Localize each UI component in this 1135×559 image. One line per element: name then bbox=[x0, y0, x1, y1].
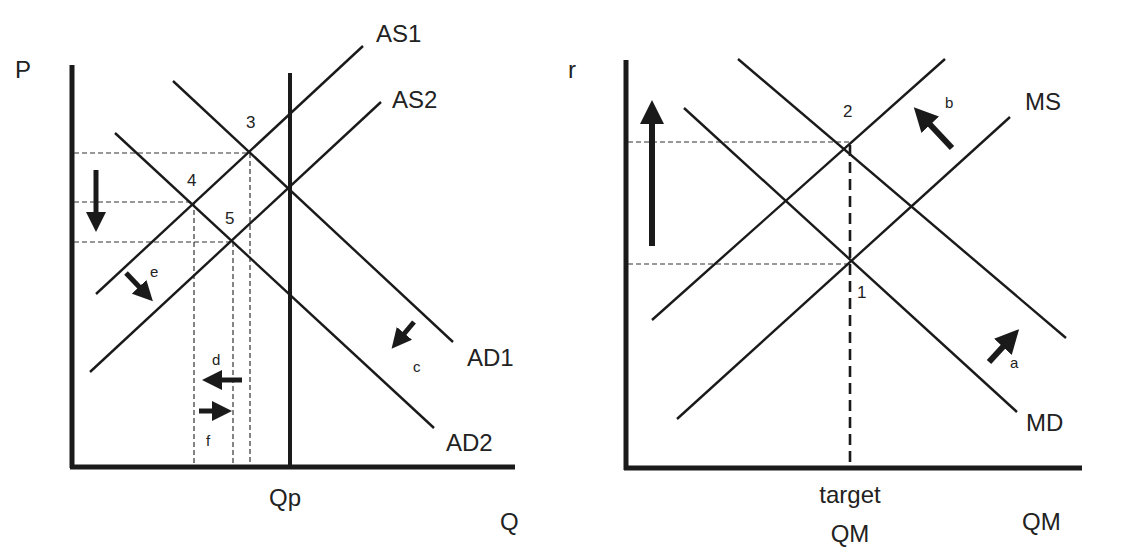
arrow-b-label: b bbox=[945, 94, 953, 111]
ms-curve bbox=[677, 117, 1010, 419]
point-1-label: 1 bbox=[857, 283, 866, 302]
price-axis-label: P bbox=[15, 56, 31, 83]
arrow-b-icon bbox=[922, 116, 952, 148]
arrow-f-label: f bbox=[206, 432, 211, 449]
md-label: MD bbox=[1026, 409, 1063, 436]
arrow-a-icon bbox=[989, 338, 1011, 362]
point-5-label: 5 bbox=[225, 209, 234, 228]
point-2-label: 2 bbox=[843, 102, 852, 121]
ad2-label: AD2 bbox=[446, 429, 493, 456]
interest-rate-axis-label: r bbox=[568, 56, 576, 83]
target-qm-label-line1: target bbox=[819, 481, 881, 508]
as2-label: AS2 bbox=[392, 86, 437, 113]
arrow-c-icon bbox=[398, 322, 414, 341]
ad1-curve bbox=[173, 81, 453, 342]
ms-shifted-curve bbox=[652, 59, 945, 320]
arrow-e-label: e bbox=[150, 263, 158, 280]
ms-label: MS bbox=[1025, 88, 1061, 115]
money-market-panel: r QM target QM MS MD 2 1 b a bbox=[568, 56, 1082, 547]
quantity-axis-label: Q bbox=[500, 508, 519, 535]
arrow-d-label: d bbox=[212, 351, 220, 368]
point-4-label: 4 bbox=[187, 171, 196, 190]
ad1-label: AD1 bbox=[467, 344, 514, 371]
arrow-e-icon bbox=[126, 273, 146, 294]
point-3-label: 3 bbox=[246, 113, 255, 132]
money-quantity-axis-label: QM bbox=[1022, 508, 1061, 535]
as1-curve bbox=[96, 46, 363, 294]
as-ad-panel: P Q Qp AS1 AS2 AD1 AD2 3 4 5 e c d f bbox=[15, 20, 519, 535]
diagram-canvas: P Q Qp AS1 AS2 AD1 AD2 3 4 5 e c d f r Q… bbox=[0, 0, 1135, 559]
arrow-a-label: a bbox=[1010, 354, 1019, 371]
target-qm-label-line2: QM bbox=[831, 520, 870, 547]
arrow-c-label: c bbox=[413, 358, 421, 375]
as1-label: AS1 bbox=[376, 20, 421, 47]
qp-tick-label: Qp bbox=[269, 484, 301, 511]
as2-curve bbox=[90, 102, 381, 372]
